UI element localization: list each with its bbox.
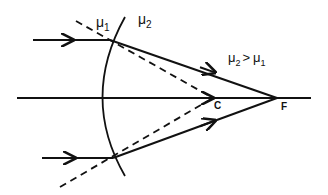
focus-label: F [281,101,287,112]
normal-upper [76,21,213,98]
refracted-ray-upper [110,40,277,98]
center-label: C [214,100,221,111]
refracted-ray-lower [113,98,277,158]
medium2-label: μ2 [138,11,152,30]
refraction-diagram: μ1 μ2 μ2>μ1 C F [0,0,328,195]
normal-lower [60,98,213,187]
condition-label: μ2>μ1 [228,50,266,68]
medium1-label: μ1 [96,14,110,33]
refracted-ray-lower-arrow-icon [200,121,214,126]
